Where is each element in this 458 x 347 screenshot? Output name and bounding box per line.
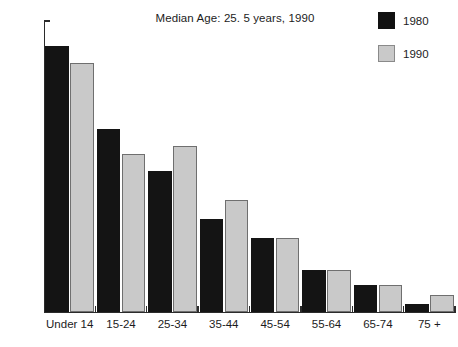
- bar-1990-25-34: [173, 146, 197, 312]
- legend-item-1990: 1990: [378, 45, 429, 62]
- bar-1980-25-34: [148, 171, 172, 312]
- bar-1990-under14: [70, 63, 94, 312]
- y-tick-mark: [44, 20, 50, 21]
- bar-1980-35-44: [200, 219, 224, 312]
- bar-1980-15-24: [97, 129, 121, 312]
- x-tick-label: 45-54: [260, 318, 289, 330]
- bar-1990-75: [430, 295, 454, 312]
- x-tick-label: 55-64: [312, 318, 341, 330]
- chart-title: Median Age: 25. 5 years, 1990: [120, 12, 350, 24]
- legend-label-1990: 1990: [403, 48, 429, 60]
- bar-1990-45-54: [276, 238, 300, 312]
- legend-swatch-1990-icon: [378, 45, 395, 62]
- x-tick-label: 65-74: [363, 318, 392, 330]
- bar-1990-65-74: [379, 285, 403, 312]
- x-tick-label: 35-44: [209, 318, 238, 330]
- legend-label-1980: 1980: [403, 15, 429, 27]
- bar-1980-under14: [45, 46, 69, 312]
- bar-1980-65-74: [354, 285, 378, 312]
- x-tick-label: 25-34: [158, 318, 187, 330]
- bar-1990-15-24: [122, 154, 146, 312]
- bar-1990-55-64: [327, 270, 351, 312]
- x-tick-label: 75 +: [418, 318, 441, 330]
- chart-legend: 1980 1990: [378, 12, 429, 78]
- bar-1980-55-64: [302, 270, 326, 312]
- bar-1980-45-54: [251, 238, 275, 312]
- legend-item-1980: 1980: [378, 12, 429, 29]
- bar-1980-75: [405, 304, 429, 312]
- x-tick-label: 15-24: [106, 318, 135, 330]
- legend-swatch-1980-icon: [378, 12, 395, 29]
- x-tick-label: Under 14: [46, 318, 93, 330]
- bar-chart: Median Age: 25. 5 years, 1990 1980 1990 …: [0, 0, 458, 347]
- bar-1990-35-44: [225, 200, 249, 312]
- x-tick-mark: [454, 306, 455, 313]
